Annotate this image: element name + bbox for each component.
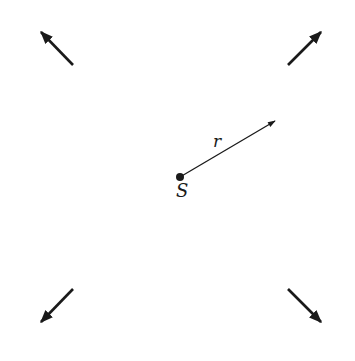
radius-label: r xyxy=(213,131,222,151)
arrow-bottom-right-icon xyxy=(288,289,321,322)
radius-vector-arrow xyxy=(180,121,275,177)
arrow-bottom-left-icon xyxy=(41,289,73,322)
arrow-top-right-icon xyxy=(288,32,321,65)
source-label: S xyxy=(176,180,188,201)
radiation-diagram: r S xyxy=(0,0,355,361)
arrow-top-left-icon xyxy=(41,32,73,65)
